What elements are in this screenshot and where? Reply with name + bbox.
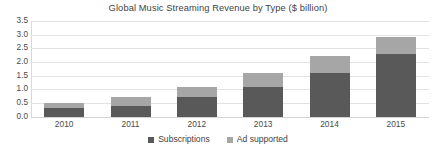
x-tick-label-2010: 2010 <box>31 119 97 130</box>
chart-legend: SubscriptionsAd supported <box>0 135 436 144</box>
gridline <box>31 89 429 90</box>
bar-group-2012[interactable] <box>177 87 217 117</box>
bar-segment-subscriptions-2011[interactable] <box>111 106 151 117</box>
bar-segment-ad-supported-2014[interactable] <box>310 56 350 72</box>
bar-segment-ad-supported-2012[interactable] <box>177 87 217 98</box>
y-tick-label: 3.5 <box>2 17 28 25</box>
bar-group-2013[interactable] <box>243 73 283 117</box>
legend-item-ad-supported[interactable]: Ad supported <box>227 135 288 144</box>
bar-segment-subscriptions-2013[interactable] <box>243 87 283 117</box>
y-tick-label: 3.0 <box>2 31 28 39</box>
x-tick-label-2014: 2014 <box>297 119 363 130</box>
bar-segment-ad-supported-2010[interactable] <box>44 103 84 108</box>
legend-swatch-icon <box>227 137 233 143</box>
y-tick-label: 0.5 <box>2 99 28 107</box>
y-axis-tick-labels: 3.53.02.52.01.51.00.50.0 <box>0 21 28 117</box>
y-tick-label: 0.0 <box>2 113 28 121</box>
y-tick-label: 2.5 <box>2 44 28 52</box>
chart-container: Global Music Streaming Revenue by Type (… <box>0 0 436 155</box>
y-tick-label: 1.5 <box>2 72 28 80</box>
bar-group-2015[interactable] <box>376 37 416 116</box>
bar-segment-ad-supported-2011[interactable] <box>111 97 151 105</box>
gridline <box>31 35 429 36</box>
bar-segment-subscriptions-2014[interactable] <box>310 73 350 117</box>
gridline <box>31 117 429 118</box>
bar-segment-ad-supported-2013[interactable] <box>243 73 283 87</box>
bar-segment-subscriptions-2010[interactable] <box>44 108 84 116</box>
y-tick-label: 2.0 <box>2 58 28 66</box>
plot-area <box>31 21 429 117</box>
x-tick-label-2015: 2015 <box>363 119 429 130</box>
x-tick-label-2012: 2012 <box>164 119 230 130</box>
legend-swatch-icon <box>148 137 154 143</box>
gridline <box>31 103 429 104</box>
chart-title: Global Music Streaming Revenue by Type (… <box>0 3 436 13</box>
bar-group-2011[interactable] <box>111 97 151 116</box>
x-tick-label-2011: 2011 <box>98 119 164 130</box>
y-tick-label: 1.0 <box>2 85 28 93</box>
legend-label: Ad supported <box>237 135 288 144</box>
bar-group-2010[interactable] <box>44 103 84 117</box>
bar-segment-subscriptions-2015[interactable] <box>376 54 416 117</box>
legend-label: Subscriptions <box>158 135 210 144</box>
gridline <box>31 21 429 22</box>
bar-segment-ad-supported-2015[interactable] <box>376 37 416 53</box>
x-axis-tick-labels: 201020112012201320142015 <box>31 119 429 133</box>
bar-segment-subscriptions-2012[interactable] <box>177 97 217 116</box>
x-tick-label-2013: 2013 <box>230 119 296 130</box>
gridline <box>31 48 429 49</box>
gridline <box>31 62 429 63</box>
gridline <box>31 76 429 77</box>
bar-group-2014[interactable] <box>310 56 350 116</box>
legend-item-subscriptions[interactable]: Subscriptions <box>148 135 210 144</box>
